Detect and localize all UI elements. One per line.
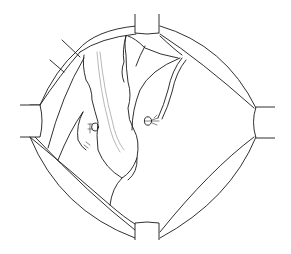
illustration-canvas (0, 0, 291, 254)
retractor-blade-top (135, 14, 159, 34)
surgical-illustration (0, 0, 291, 254)
retracted-bowel-loop (83, 36, 145, 205)
clip-right (144, 115, 159, 125)
tissue-planes (30, 36, 182, 224)
retractor-blade-right (254, 107, 276, 138)
retractor-blade-bottom (135, 222, 159, 240)
clip-left (78, 112, 99, 150)
retractor-blade-left (20, 105, 42, 137)
retractor-handle-upper-left (50, 40, 80, 72)
retractor-ring (30, 26, 256, 238)
organ-boundary (132, 58, 180, 130)
